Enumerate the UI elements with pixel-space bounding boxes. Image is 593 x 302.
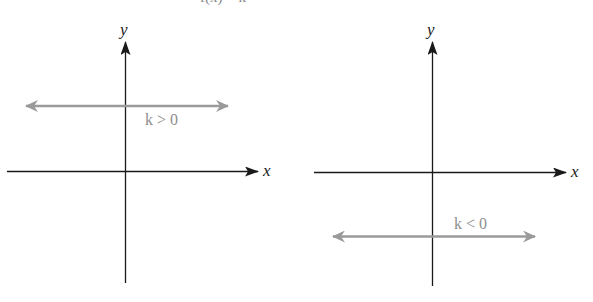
graph-left: y x k > 0 xyxy=(7,20,271,283)
x-axis-label: x xyxy=(570,162,579,181)
condition-label: k > 0 xyxy=(145,111,178,128)
x-axis-label: x xyxy=(262,161,271,180)
condition-label: k < 0 xyxy=(454,215,487,232)
y-axis-label: y xyxy=(118,20,128,39)
constant-function-diagrams: y x k > 0 y x k < 0 xyxy=(0,0,593,302)
y-axis-label: y xyxy=(425,20,435,39)
graph-right: y x k < 0 xyxy=(314,20,579,286)
